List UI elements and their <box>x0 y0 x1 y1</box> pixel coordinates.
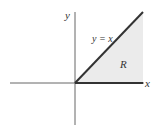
region-label: R <box>119 58 127 70</box>
region-diagram: y x y = x R <box>0 0 161 133</box>
y-axis-label: y <box>64 9 70 21</box>
x-axis-label: x <box>144 77 150 89</box>
line-label: y = x <box>91 33 113 44</box>
diagram-canvas: y x y = x R <box>0 0 161 133</box>
